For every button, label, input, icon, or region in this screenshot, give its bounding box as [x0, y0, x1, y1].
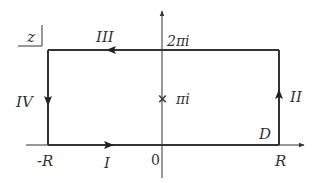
label-IV: IV	[15, 93, 35, 111]
pole-marker-icon: ×	[157, 91, 168, 106]
contour-diagram: z × III 2πi IV πi II D -R I 0 R	[0, 0, 323, 183]
label-pi-i: πi	[175, 91, 190, 107]
label-region-D: D	[258, 125, 271, 143]
plane-label-box: z	[18, 25, 42, 46]
label-II: II	[289, 88, 303, 106]
plane-label: z	[26, 28, 35, 46]
label-R: R	[274, 152, 286, 170]
label-I: I	[103, 154, 111, 172]
label-III: III	[95, 28, 115, 46]
label-origin: 0	[151, 152, 160, 168]
label-neg-R: -R	[37, 152, 53, 170]
label-2pi-i: 2πi	[166, 33, 190, 49]
